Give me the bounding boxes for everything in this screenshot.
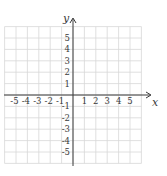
x-tick-label: -5	[10, 96, 18, 106]
x-tick-label: 1	[82, 96, 87, 106]
coordinate-plane: x y -5-4-3-2-112345 54321-1-2-3-4-5	[0, 0, 167, 176]
x-tick-label: -4	[22, 96, 30, 106]
y-tick-label: 3	[65, 56, 70, 66]
y-tick-label: 1	[65, 79, 70, 89]
x-tick-label: 5	[127, 96, 132, 106]
x-tick-label: 4	[116, 96, 121, 106]
x-tick-label: 3	[104, 96, 109, 106]
y-tick-label: -3	[62, 124, 70, 134]
x-tick-label: 2	[93, 96, 98, 106]
x-axis-tick-labels: -5-4-3-2-112345	[10, 96, 132, 106]
x-tick-label: -3	[33, 96, 41, 106]
y-tick-label: -4	[62, 136, 70, 146]
y-tick-label: -5	[62, 147, 70, 157]
x-tick-label: -2	[45, 96, 53, 106]
y-tick-label: -2	[62, 113, 70, 123]
y-tick-label: -1	[62, 101, 70, 111]
y-tick-label: 4	[65, 44, 70, 54]
x-axis-label: x	[152, 96, 159, 109]
y-tick-label: 5	[65, 33, 70, 43]
y-tick-label: 2	[65, 67, 70, 77]
y-axis-label: y	[62, 12, 70, 25]
y-axis	[70, 18, 76, 166]
